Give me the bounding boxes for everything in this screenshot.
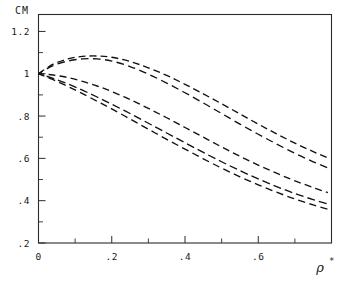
x-tick-label: 0 xyxy=(35,251,41,262)
y-tick-label: 1 xyxy=(24,68,30,79)
x-tick-label: .4 xyxy=(179,251,191,262)
x-axis-superscript: * xyxy=(329,256,334,266)
x-tick-label: .2 xyxy=(106,251,118,262)
y-tick-label: 1.2 xyxy=(11,26,30,37)
y-axis-title: CM xyxy=(15,5,29,16)
y-tick-label: .8 xyxy=(18,111,30,122)
y-tick-label: .4 xyxy=(18,195,30,206)
chart-figure: CM .2.4.6.811.20.2.4.6 ρ * xyxy=(0,0,364,281)
y-tick-label: .6 xyxy=(18,153,30,164)
y-tick-label: .2 xyxy=(18,238,30,249)
x-tick-label: .6 xyxy=(252,251,264,262)
x-axis-symbol: ρ xyxy=(315,260,324,275)
